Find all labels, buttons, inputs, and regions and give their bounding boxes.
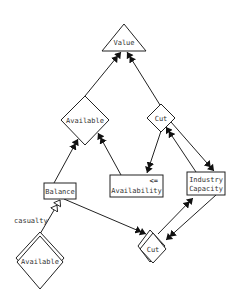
node-balance-label: Balance <box>45 188 75 196</box>
edge-cut-to-industry-capacity <box>171 122 214 171</box>
node-availability[interactable]: <= Availability <box>110 175 163 197</box>
node-available-bottom-label: Available <box>21 258 59 266</box>
node-industry-capacity-label-line2: Capacity <box>189 185 223 193</box>
node-value-label: Value <box>113 39 134 47</box>
edge-cut-to-availability <box>147 131 161 173</box>
node-cut-bottom[interactable]: Cut <box>138 230 166 263</box>
node-balance[interactable]: Balance <box>44 183 76 199</box>
edge-availability-to-available <box>98 133 121 175</box>
edge-cut-to-industry-capacity-lower <box>158 198 193 234</box>
diagram-canvas: casualty Value Available Cut <= Availabi… <box>0 0 236 304</box>
edge-balance-to-available <box>54 139 78 183</box>
edge-label-casualty: casualty <box>14 217 48 225</box>
edge-cut-to-value <box>127 52 160 105</box>
node-value[interactable]: Value <box>102 24 146 51</box>
node-availability-operator: <= <box>150 177 158 185</box>
edge-balance-to-cut <box>64 199 146 234</box>
node-available-bottom[interactable]: Available <box>16 232 64 289</box>
node-cut-top[interactable]: Cut <box>147 104 175 132</box>
node-industry-capacity[interactable]: Industry Capacity <box>187 172 225 195</box>
node-availability-label: Availability <box>111 187 162 195</box>
node-cut-bottom-label: Cut <box>147 246 160 254</box>
node-available-top-label: Available <box>66 117 104 125</box>
edge-available-to-value <box>85 52 121 96</box>
node-industry-capacity-label-line1: Industry <box>189 176 223 184</box>
edges <box>40 52 216 240</box>
node-cut-top-label: Cut <box>155 115 168 123</box>
node-available-top[interactable]: Available <box>61 96 109 145</box>
